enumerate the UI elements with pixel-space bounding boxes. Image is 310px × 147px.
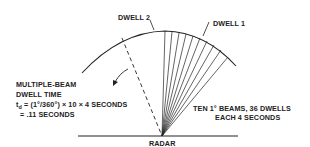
- radar-label: RADAR: [149, 139, 175, 147]
- beams-description-1: TEN 1° BEAMS, 36 DWELLS: [193, 104, 291, 113]
- coverage-arc: [82, 31, 236, 73]
- dwell-time-result: = .11 SECONDS: [20, 110, 75, 119]
- dwell1-leader: [203, 22, 209, 36]
- dwell2-dashed-line: [122, 38, 162, 136]
- formula-rest: = (1°/360°) × 10 × 4 SECONDS: [22, 100, 128, 109]
- rotation-arrow-icon: [115, 69, 128, 82]
- dwell-time-title-1: MULTIPLE-BEAM: [16, 80, 76, 89]
- dwell2-leader: [150, 20, 154, 30]
- dwell1-label: DWELL 1: [213, 19, 245, 28]
- dwell2-label: DWELL 2: [118, 13, 150, 22]
- beams-description-2: EACH 4 SECONDS: [215, 113, 280, 122]
- radar-dwell-diagram: [0, 0, 310, 147]
- dwell-time-title-2: DWELL TIME: [16, 90, 62, 99]
